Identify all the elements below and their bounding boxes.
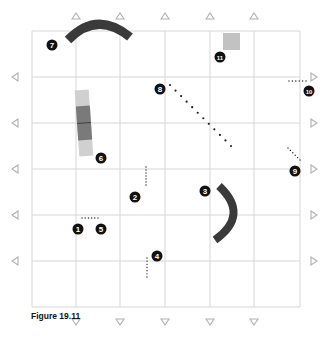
callout-badge-10: 10 xyxy=(304,86,315,97)
callout-badge-9: 9 xyxy=(290,166,301,177)
callout-badge-2: 2 xyxy=(130,192,141,203)
svg-text:10: 10 xyxy=(306,89,313,95)
svg-text:11: 11 xyxy=(217,55,224,61)
callout-badge-4: 4 xyxy=(152,251,163,262)
svg-text:3: 3 xyxy=(203,187,208,196)
edge-marker-icon xyxy=(311,119,317,127)
svg-text:4: 4 xyxy=(155,252,160,261)
edge-marker-icon xyxy=(72,13,80,19)
callout-badge-7: 7 xyxy=(47,40,58,51)
edge-marker-icon xyxy=(161,13,169,19)
edge-marker-icon xyxy=(311,257,317,265)
edge-marker-icon xyxy=(161,319,169,325)
edge-marker-icon xyxy=(311,211,317,219)
edge-marker-icon xyxy=(12,165,18,173)
arc-shape-7 xyxy=(68,24,130,40)
callout-badge-8: 8 xyxy=(155,84,166,95)
arc-shape-3 xyxy=(215,186,234,240)
edge-marker-icon xyxy=(206,13,214,19)
figure-canvas: 1234567891011 Figure 19.11 xyxy=(0,0,327,342)
edge-marker-icon xyxy=(12,257,18,265)
edge-marker-icon xyxy=(311,73,317,81)
edge-marker-icon xyxy=(250,319,258,325)
svg-text:8: 8 xyxy=(158,85,163,94)
edge-marker-icon xyxy=(12,73,18,81)
edge-marker-icon xyxy=(311,165,317,173)
edge-marker-icon xyxy=(12,211,18,219)
figure-caption: Figure 19.11 xyxy=(31,311,80,321)
callout-badge-11: 11 xyxy=(215,52,226,63)
callout-badge-1: 1 xyxy=(73,224,84,235)
bar-shape-6 xyxy=(75,90,94,157)
square-shape-11 xyxy=(223,33,240,50)
dotted-lines xyxy=(81,80,306,277)
svg-text:5: 5 xyxy=(99,225,104,234)
svg-text:6: 6 xyxy=(99,154,104,163)
svg-text:7: 7 xyxy=(50,41,55,50)
grid xyxy=(32,31,300,307)
edge-marker-icon xyxy=(12,119,18,127)
edge-marker-icon xyxy=(116,13,124,19)
svg-text:9: 9 xyxy=(293,167,298,176)
svg-text:1: 1 xyxy=(76,225,81,234)
svg-text:2: 2 xyxy=(133,193,138,202)
callout-badge-6: 6 xyxy=(96,153,107,164)
edge-marker-icon xyxy=(116,319,124,325)
callout-badge-5: 5 xyxy=(96,224,107,235)
edge-marker-icon xyxy=(206,319,214,325)
edge-marker-icon xyxy=(250,13,258,19)
callout-badge-3: 3 xyxy=(200,186,211,197)
